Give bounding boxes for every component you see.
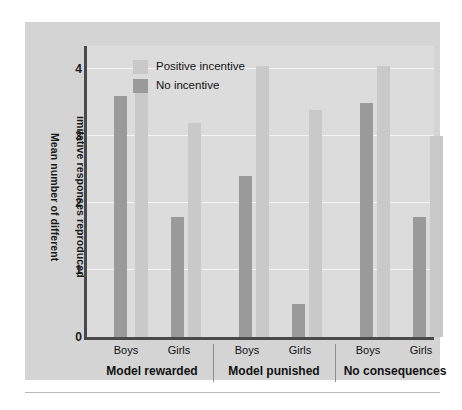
- x-axis-group-label: Model punished: [228, 365, 319, 377]
- legend-label: Positive incentive: [156, 61, 245, 73]
- legend-item: No incentive: [133, 79, 245, 93]
- legend-swatch-positive-incentive: [133, 60, 148, 74]
- y-axis-tick-label: 0: [75, 331, 82, 343]
- y-axis-tick-label: 3: [75, 130, 82, 142]
- x-axis-tick-label: Boys: [114, 345, 138, 356]
- x-axis-tick-label: Girls: [168, 345, 191, 356]
- group-separator: [213, 344, 214, 382]
- bar: [239, 176, 252, 337]
- legend-swatch-no-incentive: [133, 79, 148, 93]
- bar: [413, 217, 426, 337]
- y-axis-tick-label: 1: [75, 264, 82, 276]
- x-axis-tick-labels: BoysGirlsBoysGirlsBoysGirls: [84, 345, 434, 363]
- y-axis-title-line1: Mean number of different: [48, 116, 61, 278]
- x-axis-group-label: No consequences: [344, 365, 447, 377]
- bar: [377, 66, 390, 337]
- x-axis-tick-label: Boys: [356, 345, 380, 356]
- x-axis-group-labels: Model rewardedModel punishedNo consequen…: [84, 365, 434, 385]
- bar: [171, 217, 184, 337]
- legend-label: No incentive: [156, 80, 219, 92]
- bar: [360, 103, 373, 337]
- bar: [309, 110, 322, 337]
- x-axis: BoysGirlsBoysGirlsBoysGirls Model reward…: [84, 343, 434, 395]
- bar: [256, 66, 269, 337]
- legend-item: Positive incentive: [133, 60, 245, 74]
- x-axis-tick-label: Girls: [289, 345, 312, 356]
- plot-area: 01234 Positive incentive No incentive: [84, 46, 434, 340]
- bar: [135, 83, 148, 337]
- x-axis-group-label: Model rewarded: [106, 365, 197, 377]
- chart-panel: Mean number of different imitative respo…: [25, 22, 440, 380]
- chart-legend: Positive incentive No incentive: [133, 60, 245, 93]
- bar: [430, 136, 443, 337]
- x-axis-tick-label: Boys: [235, 345, 259, 356]
- group-separator: [335, 344, 336, 382]
- footer-rule: [25, 392, 440, 393]
- bar: [188, 123, 201, 337]
- y-axis-tick-label: 4: [75, 63, 82, 75]
- x-axis-tick-label: Girls: [410, 345, 433, 356]
- bar: [292, 304, 305, 337]
- bar: [114, 96, 127, 337]
- y-axis-tick-label: 2: [75, 197, 82, 209]
- chart-figure: Mean number of different imitative respo…: [0, 0, 462, 410]
